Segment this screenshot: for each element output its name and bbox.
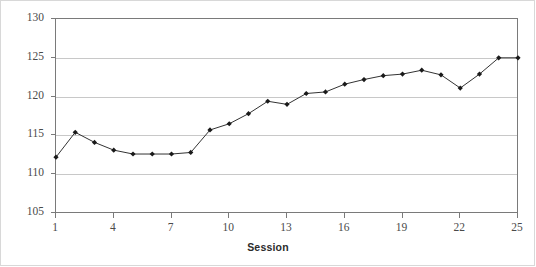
data-point-marker <box>304 91 309 96</box>
data-point-marker <box>323 89 328 94</box>
x-axis-tick-label: 10 <box>213 222 243 234</box>
data-point-marker <box>92 140 97 145</box>
data-point-marker <box>169 151 174 156</box>
x-axis-tick-mark <box>402 213 403 218</box>
data-point-marker <box>150 151 155 156</box>
x-axis-tick-label: 22 <box>444 222 474 234</box>
data-point-marker <box>130 151 135 156</box>
data-point-marker <box>227 121 232 126</box>
data-point-marker <box>361 77 366 82</box>
data-series <box>56 19 519 214</box>
data-point-marker <box>284 102 289 107</box>
data-point-marker <box>265 99 270 104</box>
data-point-marker <box>515 55 520 60</box>
y-axis-tick-label: 115 <box>0 128 44 140</box>
data-point-marker <box>400 71 405 76</box>
x-axis-tick-label: 1 <box>40 222 70 234</box>
data-point-marker <box>342 82 347 87</box>
line-chart: 105110115120125130 147101316192225 Sessi… <box>0 0 536 267</box>
x-axis-tick-mark <box>344 213 345 218</box>
x-axis-tick-label: 7 <box>156 222 186 234</box>
x-axis-tick-label: 25 <box>502 222 532 234</box>
data-point-marker <box>419 68 424 73</box>
x-axis-tick-label: 16 <box>329 222 359 234</box>
x-axis-tick-mark <box>517 213 518 218</box>
x-axis-tick-mark <box>113 213 114 218</box>
series-markers <box>53 55 520 160</box>
data-point-marker <box>246 111 251 116</box>
x-axis-tick-mark <box>459 213 460 218</box>
data-point-marker <box>111 148 116 153</box>
data-point-marker <box>381 73 386 78</box>
x-axis-tick-mark <box>286 213 287 218</box>
y-axis-tick-label: 125 <box>0 51 44 63</box>
series-line <box>56 58 518 157</box>
x-axis-tick-mark <box>171 213 172 218</box>
x-axis-tick-label: 19 <box>387 222 417 234</box>
x-axis-title: Session <box>0 241 536 253</box>
y-axis-tick-label: 120 <box>0 90 44 102</box>
x-axis-tick-label: 13 <box>271 222 301 234</box>
x-axis-tick-label: 4 <box>98 222 128 234</box>
plot-area <box>55 18 518 213</box>
x-axis-tick-mark <box>55 213 56 218</box>
y-axis-tick-label: 130 <box>0 12 44 24</box>
y-axis-tick-label: 105 <box>0 206 44 218</box>
y-axis-tick-label: 110 <box>0 167 44 179</box>
x-axis-tick-mark <box>228 213 229 218</box>
